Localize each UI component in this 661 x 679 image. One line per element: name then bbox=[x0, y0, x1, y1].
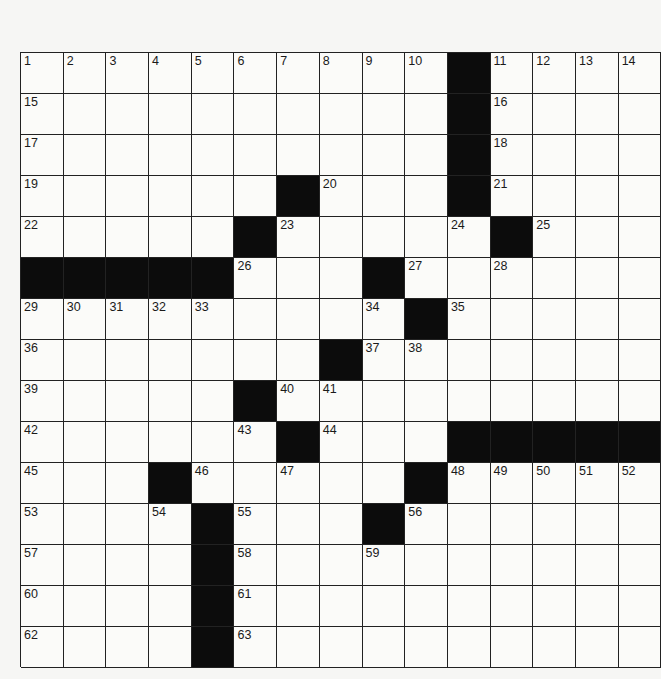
answer-cell[interactable]: 61 bbox=[234, 586, 277, 627]
answer-cell[interactable] bbox=[363, 135, 406, 176]
answer-cell[interactable] bbox=[533, 135, 576, 176]
answer-cell[interactable] bbox=[576, 135, 619, 176]
answer-cell[interactable] bbox=[277, 258, 320, 299]
answer-cell[interactable] bbox=[363, 463, 406, 504]
answer-cell[interactable] bbox=[576, 627, 619, 668]
answer-cell[interactable] bbox=[234, 94, 277, 135]
answer-cell[interactable] bbox=[149, 217, 192, 258]
answer-cell[interactable]: 46 bbox=[192, 463, 235, 504]
answer-cell[interactable] bbox=[106, 217, 149, 258]
answer-cell[interactable]: 23 bbox=[277, 217, 320, 258]
answer-cell[interactable] bbox=[576, 504, 619, 545]
answer-cell[interactable] bbox=[405, 217, 448, 258]
answer-cell[interactable] bbox=[149, 340, 192, 381]
answer-cell[interactable] bbox=[619, 586, 661, 627]
answer-cell[interactable] bbox=[491, 299, 534, 340]
answer-cell[interactable] bbox=[192, 135, 235, 176]
answer-cell[interactable] bbox=[320, 217, 363, 258]
answer-cell[interactable] bbox=[576, 94, 619, 135]
answer-cell[interactable] bbox=[320, 545, 363, 586]
answer-cell[interactable] bbox=[405, 94, 448, 135]
answer-cell[interactable] bbox=[106, 422, 149, 463]
answer-cell[interactable] bbox=[64, 586, 107, 627]
answer-cell[interactable]: 16 bbox=[491, 94, 534, 135]
answer-cell[interactable]: 31 bbox=[106, 299, 149, 340]
answer-cell[interactable]: 20 bbox=[320, 176, 363, 217]
answer-cell[interactable]: 3 bbox=[106, 53, 149, 94]
answer-cell[interactable] bbox=[576, 176, 619, 217]
answer-cell[interactable] bbox=[533, 381, 576, 422]
answer-cell[interactable] bbox=[491, 340, 534, 381]
answer-cell[interactable] bbox=[320, 586, 363, 627]
answer-cell[interactable]: 11 bbox=[491, 53, 534, 94]
answer-cell[interactable] bbox=[149, 135, 192, 176]
answer-cell[interactable]: 35 bbox=[448, 299, 491, 340]
answer-cell[interactable]: 52 bbox=[619, 463, 661, 504]
answer-cell[interactable] bbox=[106, 545, 149, 586]
answer-cell[interactable]: 40 bbox=[277, 381, 320, 422]
answer-cell[interactable] bbox=[405, 586, 448, 627]
answer-cell[interactable] bbox=[448, 340, 491, 381]
answer-cell[interactable] bbox=[619, 135, 661, 176]
answer-cell[interactable] bbox=[576, 586, 619, 627]
answer-cell[interactable]: 14 bbox=[619, 53, 661, 94]
answer-cell[interactable] bbox=[277, 299, 320, 340]
answer-cell[interactable] bbox=[234, 176, 277, 217]
answer-cell[interactable] bbox=[149, 586, 192, 627]
answer-cell[interactable]: 41 bbox=[320, 381, 363, 422]
answer-cell[interactable] bbox=[491, 545, 534, 586]
answer-cell[interactable]: 7 bbox=[277, 53, 320, 94]
answer-cell[interactable] bbox=[277, 504, 320, 545]
answer-cell[interactable]: 45 bbox=[21, 463, 64, 504]
answer-cell[interactable]: 33 bbox=[192, 299, 235, 340]
answer-cell[interactable] bbox=[405, 422, 448, 463]
answer-cell[interactable] bbox=[619, 504, 661, 545]
answer-cell[interactable] bbox=[533, 258, 576, 299]
answer-cell[interactable] bbox=[619, 340, 661, 381]
answer-cell[interactable] bbox=[192, 340, 235, 381]
answer-cell[interactable]: 49 bbox=[491, 463, 534, 504]
answer-cell[interactable] bbox=[405, 627, 448, 668]
answer-cell[interactable]: 42 bbox=[21, 422, 64, 463]
answer-cell[interactable]: 37 bbox=[363, 340, 406, 381]
answer-cell[interactable] bbox=[106, 504, 149, 545]
answer-cell[interactable]: 5 bbox=[192, 53, 235, 94]
answer-cell[interactable]: 19 bbox=[21, 176, 64, 217]
answer-cell[interactable] bbox=[491, 381, 534, 422]
answer-cell[interactable]: 25 bbox=[533, 217, 576, 258]
answer-cell[interactable]: 39 bbox=[21, 381, 64, 422]
answer-cell[interactable]: 57 bbox=[21, 545, 64, 586]
answer-cell[interactable]: 51 bbox=[576, 463, 619, 504]
answer-cell[interactable] bbox=[576, 381, 619, 422]
answer-cell[interactable] bbox=[106, 176, 149, 217]
answer-cell[interactable] bbox=[277, 586, 320, 627]
answer-cell[interactable]: 50 bbox=[533, 463, 576, 504]
answer-cell[interactable]: 54 bbox=[149, 504, 192, 545]
answer-cell[interactable] bbox=[320, 504, 363, 545]
answer-cell[interactable] bbox=[234, 299, 277, 340]
answer-cell[interactable]: 48 bbox=[448, 463, 491, 504]
answer-cell[interactable]: 27 bbox=[405, 258, 448, 299]
answer-cell[interactable]: 43 bbox=[234, 422, 277, 463]
answer-cell[interactable]: 32 bbox=[149, 299, 192, 340]
answer-cell[interactable] bbox=[533, 340, 576, 381]
answer-cell[interactable] bbox=[533, 586, 576, 627]
answer-cell[interactable] bbox=[106, 340, 149, 381]
answer-cell[interactable] bbox=[619, 94, 661, 135]
answer-cell[interactable] bbox=[448, 504, 491, 545]
answer-cell[interactable]: 30 bbox=[64, 299, 107, 340]
answer-cell[interactable] bbox=[576, 545, 619, 586]
answer-cell[interactable]: 8 bbox=[320, 53, 363, 94]
answer-cell[interactable]: 29 bbox=[21, 299, 64, 340]
answer-cell[interactable] bbox=[363, 217, 406, 258]
answer-cell[interactable] bbox=[533, 176, 576, 217]
answer-cell[interactable] bbox=[576, 340, 619, 381]
answer-cell[interactable] bbox=[64, 381, 107, 422]
answer-cell[interactable] bbox=[64, 463, 107, 504]
answer-cell[interactable]: 58 bbox=[234, 545, 277, 586]
answer-cell[interactable]: 4 bbox=[149, 53, 192, 94]
answer-cell[interactable] bbox=[106, 463, 149, 504]
answer-cell[interactable] bbox=[149, 545, 192, 586]
answer-cell[interactable] bbox=[619, 381, 661, 422]
answer-cell[interactable] bbox=[149, 176, 192, 217]
